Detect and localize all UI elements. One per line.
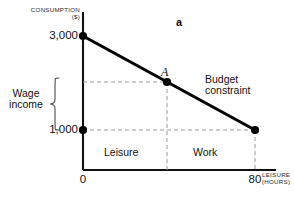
x-tick-label-0: 0	[71, 173, 95, 185]
y-axis-unit-text: ($)	[28, 14, 80, 21]
wage-income-label: Wage income	[2, 88, 50, 111]
x-tick-label-80: 80	[243, 173, 267, 185]
budget-constraint-label-line2: constraint	[205, 85, 251, 96]
point-a-label: A	[161, 66, 168, 79]
y-tick-label-1000: 1,000	[26, 123, 78, 135]
region-label-work: Work	[193, 147, 217, 158]
budget-constraint-label: Budget constraint	[205, 74, 251, 97]
y-tick-label-3000: 3,000	[26, 29, 78, 41]
region-label-leisure: Leisure	[104, 147, 138, 158]
panel-label: a	[176, 17, 182, 29]
y-axis-title: CONSUMPTION ($)	[28, 7, 80, 20]
marker-nonlabor-income-1000	[79, 126, 87, 134]
marker-intercept-3000	[79, 32, 87, 40]
wage-income-label-line2: income	[2, 99, 50, 110]
budget-constraint-figure: CONSUMPTION ($) LEISURE (HOURS) 3,000 1,…	[0, 0, 294, 200]
marker-endpoint-80-hours	[251, 126, 259, 134]
y-axis-title-text: CONSUMPTION	[31, 6, 80, 13]
marker-point-a	[163, 78, 171, 86]
